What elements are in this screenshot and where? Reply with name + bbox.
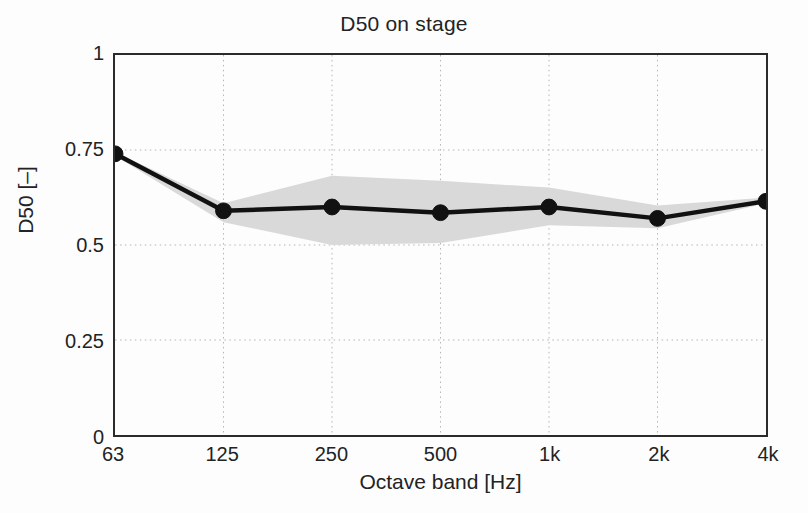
chart-plot-svg: [115, 55, 766, 435]
x-axis-tick-label: 500: [424, 443, 457, 466]
x-axis-tick-label: 4k: [757, 443, 778, 466]
x-axis-title: Octave band [Hz]: [113, 470, 768, 494]
data-point-marker: [433, 205, 449, 221]
x-axis-tick-label: 250: [315, 443, 348, 466]
y-axis-tick-label: 1: [93, 42, 104, 65]
data-point-marker: [541, 199, 557, 215]
x-axis-tick-label: 125: [205, 443, 238, 466]
y-axis-tick-label: 0.5: [76, 234, 104, 257]
y-axis-tick-label: 0.25: [65, 330, 104, 353]
page-title: D50 on stage: [0, 12, 808, 36]
y-axis-tick-label: 0.75: [65, 138, 104, 161]
y-axis-tick-labels: 00.250.50.751: [20, 53, 104, 437]
data-point-marker: [324, 199, 340, 215]
data-point-marker: [216, 203, 232, 219]
x-axis-tick-label: 1k: [539, 443, 560, 466]
spread-band: [115, 152, 766, 245]
grid-lines: [115, 55, 766, 435]
spread-band-area: [115, 152, 766, 245]
x-axis-tick-label: 2k: [648, 443, 669, 466]
x-axis-tick-labels: 631252505001k2k4k: [113, 443, 768, 469]
data-point-marker: [758, 193, 766, 209]
x-axis-tick-label: 63: [102, 443, 124, 466]
plot-area: [113, 53, 768, 437]
chart-figure: D50 on stage D50 [–] 00.250.50.751 63125…: [0, 0, 808, 513]
data-point-marker: [650, 210, 666, 226]
